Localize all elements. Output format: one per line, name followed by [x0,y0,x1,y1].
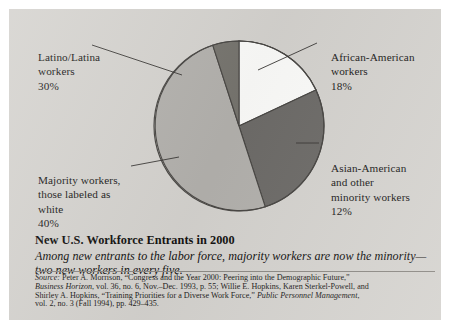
source-journal-2: Public Personnel Management [257,291,358,300]
figure-page: Latino/Latina workers 30% African-Americ… [0,0,450,327]
source-line-3-tail: , [357,291,359,300]
source-line-1-text: Peter A. Morrison, “Congress and the Yea… [60,273,350,282]
source-line-4: vol. 2, no. 3 (Fall 1994), pp. 429–435. [35,300,439,309]
pie-label-majority: Majority workers, those labeled as white… [38,159,168,244]
pie-label-african-american-percent: 18% [331,79,449,93]
pie-label-latino: Latino/Latina workers 30% [38,36,158,107]
pie-label-asian-american: Asian-American and other minority worker… [331,147,449,232]
source-line-2-text: , vol. 36, no. 6, Nov.–Dec. 1993, p. 55;… [92,282,369,291]
source-line-3-text: Shirley A. Hopkins, “Training Priorities… [35,291,257,300]
caption-divider [35,271,435,272]
pie-label-asian-american-name: Asian-American and other minority worker… [331,162,410,202]
pie-label-asian-american-percent: 12% [331,204,449,218]
pie-label-african-american-name: African-American workers [331,51,415,77]
source-journal-1: Business Horizon [35,282,92,291]
leader-line-african-american [258,43,317,70]
pie-label-latino-percent: 30% [38,79,158,93]
pie-label-majority-name: Majority workers, those labeled as white [38,174,120,214]
figure-caption-title: New U.S. Workforce Entrants in 2000 [35,233,437,248]
pie-label-majority-percent: 40% [38,216,168,230]
figure-panel: Latino/Latina workers 30% African-Americ… [9,9,441,320]
pie-label-latino-name: Latino/Latina workers [38,51,100,77]
pie-label-african-american: African-American workers 18% [331,36,449,107]
source-label: Source: [35,273,60,282]
figure-source: Source: Peter A. Morrison, “Congress and… [35,274,439,309]
